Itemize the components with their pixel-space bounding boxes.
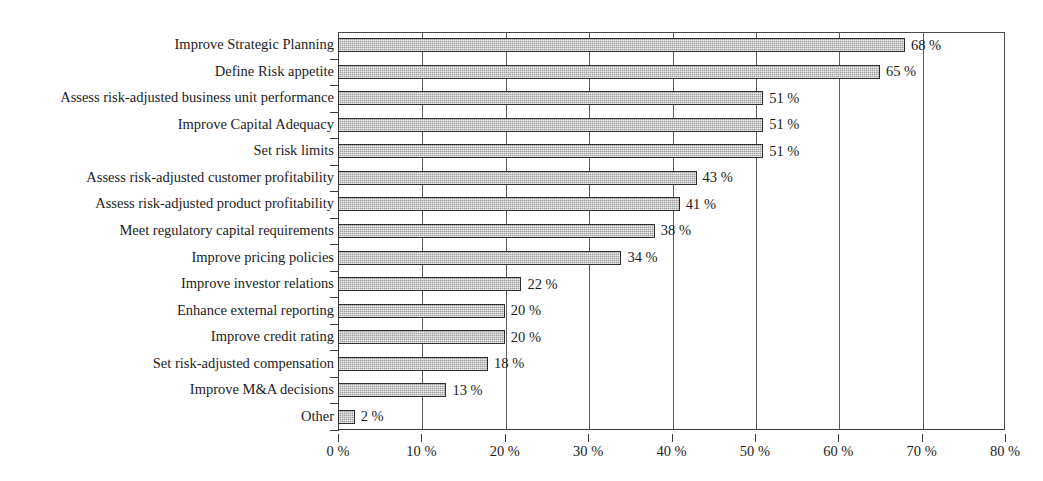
bar-value-label: 68 %: [911, 37, 941, 54]
bar: [338, 410, 355, 424]
bar: [338, 330, 505, 344]
bar-value-label: 22 %: [527, 276, 557, 293]
bar: [338, 304, 505, 318]
category-label: Define Risk appetite: [215, 64, 334, 80]
x-axis-tick-label: 0 %: [327, 443, 350, 460]
bar-row: Set risk-adjusted compensation18 %: [0, 350, 1043, 377]
x-axis-tick-label: 50 %: [740, 443, 770, 460]
category-label: Other: [301, 409, 334, 425]
bar-row: Define Risk appetite65 %: [0, 59, 1043, 86]
bar-row: Other2 %: [0, 403, 1043, 430]
x-axis-tick: [1005, 434, 1006, 442]
x-axis-tick: [338, 434, 339, 442]
category-label: Improve investor relations: [181, 276, 334, 292]
category-label: Set risk limits: [253, 143, 334, 159]
bar-chart: Improve Strategic Planning68 %Define Ris…: [0, 0, 1043, 481]
bar-value-label: 18 %: [494, 355, 524, 372]
bar: [338, 251, 621, 265]
bar-container: 34 %: [338, 251, 658, 265]
bar: [338, 91, 763, 105]
bar-container: 18 %: [338, 357, 524, 371]
bar-row: Improve M&A decisions13 %: [0, 377, 1043, 404]
bar-row: Improve pricing policies34 %: [0, 244, 1043, 271]
bar-value-label: 34 %: [627, 249, 657, 266]
bar-row: Assess risk-adjusted product profitabili…: [0, 191, 1043, 218]
bar-row: Improve credit rating20 %: [0, 324, 1043, 351]
bar: [338, 144, 763, 158]
bar-rows: Improve Strategic Planning68 %Define Ris…: [0, 32, 1043, 430]
bar-container: 51 %: [338, 144, 799, 158]
bar-row: Set risk limits51 %: [0, 138, 1043, 165]
bar-container: 38 %: [338, 224, 691, 238]
y-axis-tick: [330, 430, 339, 431]
bar: [338, 171, 697, 185]
category-label: Improve pricing policies: [191, 250, 334, 266]
bar-container: 65 %: [338, 65, 916, 79]
category-label: Improve Capital Adequacy: [178, 117, 334, 133]
x-axis-tick: [838, 434, 839, 442]
x-axis-tick-label: 70 %: [907, 443, 937, 460]
bar-container: 43 %: [338, 171, 733, 185]
bar: [338, 197, 680, 211]
bar-container: 20 %: [338, 330, 541, 344]
x-axis-tick-label: 30 %: [573, 443, 603, 460]
x-axis-tick-label: 10 %: [406, 443, 436, 460]
category-label: Improve Strategic Planning: [175, 37, 334, 53]
bar-value-label: 51 %: [769, 143, 799, 160]
x-axis: 0 %10 %20 %30 %40 %50 %60 %70 %80 %: [0, 434, 1043, 464]
x-axis-tick: [421, 434, 422, 442]
bar-row: Assess risk-adjusted customer profitabil…: [0, 165, 1043, 192]
bar-container: 51 %: [338, 91, 799, 105]
bar: [338, 357, 488, 371]
category-label: Assess risk-adjusted business unit perfo…: [60, 90, 334, 106]
bar-row: Improve Capital Adequacy51 %: [0, 112, 1043, 139]
x-axis-tick-label: 60 %: [823, 443, 853, 460]
bar: [338, 277, 521, 291]
bar-container: 51 %: [338, 118, 799, 132]
bar-value-label: 51 %: [769, 90, 799, 107]
bar-container: 68 %: [338, 38, 941, 52]
bar-row: Assess risk-adjusted business unit perfo…: [0, 85, 1043, 112]
x-axis-tick-label: 20 %: [490, 443, 520, 460]
category-label: Meet regulatory capital requirements: [119, 223, 334, 239]
x-axis-tick: [505, 434, 506, 442]
bar-container: 22 %: [338, 277, 558, 291]
x-axis-tick: [755, 434, 756, 442]
bar-container: 13 %: [338, 383, 483, 397]
bar-value-label: 13 %: [452, 382, 482, 399]
bar-container: 2 %: [338, 410, 384, 424]
bar-row: Improve Strategic Planning68 %: [0, 32, 1043, 59]
bar: [338, 38, 905, 52]
bar-row: Improve investor relations22 %: [0, 271, 1043, 298]
category-label: Improve M&A decisions: [190, 382, 334, 398]
x-axis-tick: [672, 434, 673, 442]
category-label: Set risk-adjusted compensation: [153, 356, 334, 372]
category-label: Improve credit rating: [211, 329, 334, 345]
x-axis-tick: [588, 434, 589, 442]
x-axis-tick-label: 40 %: [656, 443, 686, 460]
bar-row: Meet regulatory capital requirements38 %: [0, 218, 1043, 245]
bar-value-label: 65 %: [886, 63, 916, 80]
bar-value-label: 2 %: [361, 408, 384, 425]
category-label: Enhance external reporting: [177, 303, 334, 319]
bar-value-label: 20 %: [511, 302, 541, 319]
category-label: Assess risk-adjusted customer profitabil…: [86, 170, 334, 186]
bar-container: 20 %: [338, 304, 541, 318]
bar: [338, 383, 446, 397]
x-axis-tick-label: 80 %: [990, 443, 1020, 460]
category-label: Assess risk-adjusted product profitabili…: [95, 196, 334, 212]
bar: [338, 65, 880, 79]
bar-value-label: 38 %: [661, 222, 691, 239]
bar-container: 41 %: [338, 197, 716, 211]
bar-value-label: 43 %: [703, 169, 733, 186]
bar-value-label: 41 %: [686, 196, 716, 213]
bar: [338, 224, 655, 238]
bar-value-label: 20 %: [511, 329, 541, 346]
bar-value-label: 51 %: [769, 116, 799, 133]
x-axis-tick: [922, 434, 923, 442]
bar-row: Enhance external reporting20 %: [0, 297, 1043, 324]
bar: [338, 118, 763, 132]
